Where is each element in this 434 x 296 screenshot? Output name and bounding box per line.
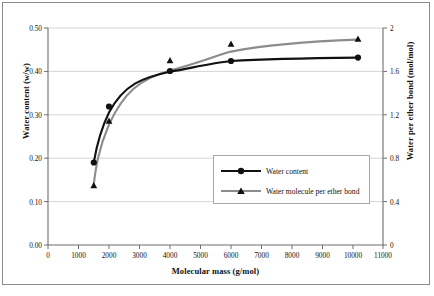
axis-lines [48,28,383,245]
y-axis-left-ticks [44,28,48,245]
y-left-tick-1: 0.10 [6,198,42,207]
legend-item-water-content: Water content [220,164,308,178]
legend-label-water-content: Water content [266,167,308,176]
y-axis-right-ticks [383,28,387,245]
chart-figure: 0.00 0.10 0.20 0.30 0.40 0.50 0 0.4 0.8 … [0,0,434,296]
chart-legend: Water content Water molecule per ether b… [213,155,370,204]
y-right-tick-1: 0.4 [390,198,416,207]
x-tick-11: 11000 [365,251,401,260]
legend-label-water-per-ether-bond: Water molecule per ether bond [266,187,359,196]
y-right-tick-0: 0 [390,241,416,250]
y-left-tick-0: 0.00 [6,241,42,250]
y-axis-right-title: Water per ether bond (mol/mol) [405,31,415,171]
x-axis-ticks [48,245,383,249]
legend-marker-triangle-icon [220,185,262,197]
y-axis-left-title: Water content (w/w) [21,31,31,171]
legend-item-water-per-ether-bond: Water molecule per ether bond [220,184,359,198]
series-water-content-line [94,58,358,163]
legend-marker-circle-icon [220,165,262,177]
x-axis-title: Molecular mass (g/mol) [48,266,383,276]
